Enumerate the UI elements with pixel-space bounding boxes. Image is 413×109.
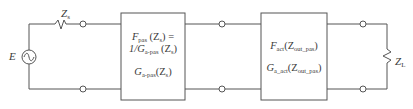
source-impedance-label: Zs: [61, 8, 70, 21]
passive-inverse-gain: 1/Ga-pas (Zs): [121, 43, 185, 55]
passive-available-gain: Ga-pas(Zs): [121, 66, 185, 78]
source-label: E: [9, 51, 16, 62]
terminal-3-top: [360, 21, 366, 27]
load-impedance-label: ZL: [395, 56, 405, 69]
source-impedance-zigzag: [55, 20, 66, 29]
active-noise-figure: Fact(Zout_pas): [261, 40, 327, 52]
terminal-2-bottom: [219, 86, 225, 92]
terminal-1-top: [80, 21, 86, 27]
terminal-2-top: [219, 21, 225, 27]
load-impedance-zigzag: [383, 49, 391, 63]
passive-block-text: Fpas (Zs) = 1/Ga-pas (Zs) Ga-pas(Zs): [121, 31, 185, 78]
active-available-gain: Ga_act(Zout_pas): [261, 62, 327, 74]
passive-noise-figure: Fpas (Zs) =: [121, 31, 185, 43]
terminal-1-bottom: [80, 86, 86, 92]
active-block-text: Fact(Zout_pas) Ga_act(Zout_pas): [261, 40, 327, 75]
terminal-3-bottom: [360, 86, 366, 92]
